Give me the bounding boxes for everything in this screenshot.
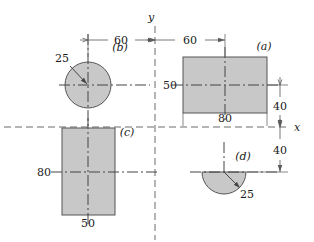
- dim-50c-text: 50: [81, 217, 95, 230]
- dim-50-text: 50: [163, 79, 177, 92]
- shape-c-label: (c): [120, 126, 135, 139]
- dimension-upper-40: 40: [267, 85, 288, 127]
- dimension-center-50: 50: [163, 79, 177, 92]
- dim-80a-text: 80: [218, 112, 232, 125]
- dim-left-60-text: 60: [114, 34, 128, 47]
- dim-80c-text: 80: [37, 166, 51, 179]
- dim-lower-40-text: 40: [273, 144, 287, 157]
- dim-upper-40-text: 40: [273, 100, 287, 113]
- dimension-lower-40: 40: [246, 127, 288, 172]
- shape-d-radius-label: 25: [240, 188, 254, 201]
- shape-d-semicircle: 25 (d): [190, 142, 279, 201]
- shape-d-label: (d): [235, 150, 251, 163]
- shape-a-rectangle: (a): [172, 40, 279, 123]
- dim-right-60-text: 60: [183, 34, 197, 47]
- x-axis-label: x: [294, 121, 301, 134]
- shape-b-circle: 25 (b): [55, 34, 150, 128]
- y-axis-label: y: [147, 11, 155, 24]
- figure-canvas: y x (a) 80 25 (b): [0, 0, 314, 242]
- dimension-drawing: y x (a) 80 25 (b): [0, 0, 314, 242]
- shape-b-radius-label: 25: [55, 52, 69, 65]
- shape-c-rectangle: (c) 80 50: [37, 118, 160, 230]
- dimension-rect-a-width: 80: [183, 112, 267, 126]
- shape-a-label: (a): [256, 40, 271, 53]
- dimension-right-60: 60: [155, 34, 225, 57]
